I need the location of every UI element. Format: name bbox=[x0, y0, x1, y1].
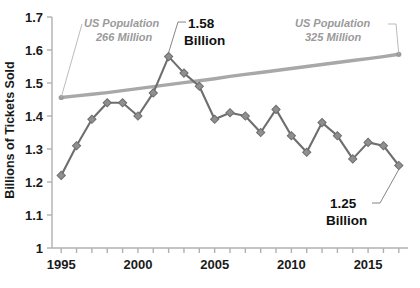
chart-container: Billions of Tickets Sold 11.11.21.31.41.… bbox=[0, 0, 420, 288]
x-axis-tick-label: 1995 bbox=[47, 257, 76, 272]
population-endpoint-marker bbox=[59, 95, 64, 100]
annotation-pop-end-line1: US Population bbox=[295, 17, 370, 29]
x-axis-tick-label: 2000 bbox=[123, 257, 152, 272]
annotation-final-line1: 1.25 bbox=[330, 196, 357, 211]
annotation-final-line2: Billion bbox=[326, 213, 367, 228]
y-axis-tick-label: 1.1 bbox=[25, 208, 43, 223]
annotation-pop-start-line1: US Population bbox=[84, 17, 159, 29]
annotation-peak-line2: Billion bbox=[184, 33, 225, 48]
x-axis-tick-label: 2010 bbox=[277, 257, 306, 272]
y-axis-label: Billions of Tickets Sold bbox=[3, 61, 17, 198]
line-chart: Billions of Tickets Sold 11.11.21.31.41.… bbox=[0, 0, 420, 288]
annotation-pop-end-line2: 325 Million bbox=[305, 31, 362, 43]
y-axis-tick-label: 1.7 bbox=[25, 10, 43, 25]
y-axis-tick-label: 1.5 bbox=[25, 76, 43, 91]
annotation-peak-line1: 1.58 bbox=[188, 16, 215, 31]
y-axis-tick-label: 1.3 bbox=[25, 142, 43, 157]
y-axis-tick-label: 1.4 bbox=[25, 109, 44, 124]
annotation-pop-start-line2: 266 Million bbox=[95, 31, 153, 43]
y-axis-tick-label: 1.6 bbox=[25, 43, 43, 58]
x-axis-tick-label: 2015 bbox=[354, 257, 383, 272]
y-axis-tick-label: 1.2 bbox=[25, 175, 43, 190]
y-axis-label-text: Billions of Tickets Sold bbox=[3, 61, 17, 198]
x-axis-tick-label: 2005 bbox=[200, 257, 229, 272]
y-axis-tick-label: 1 bbox=[36, 241, 43, 256]
